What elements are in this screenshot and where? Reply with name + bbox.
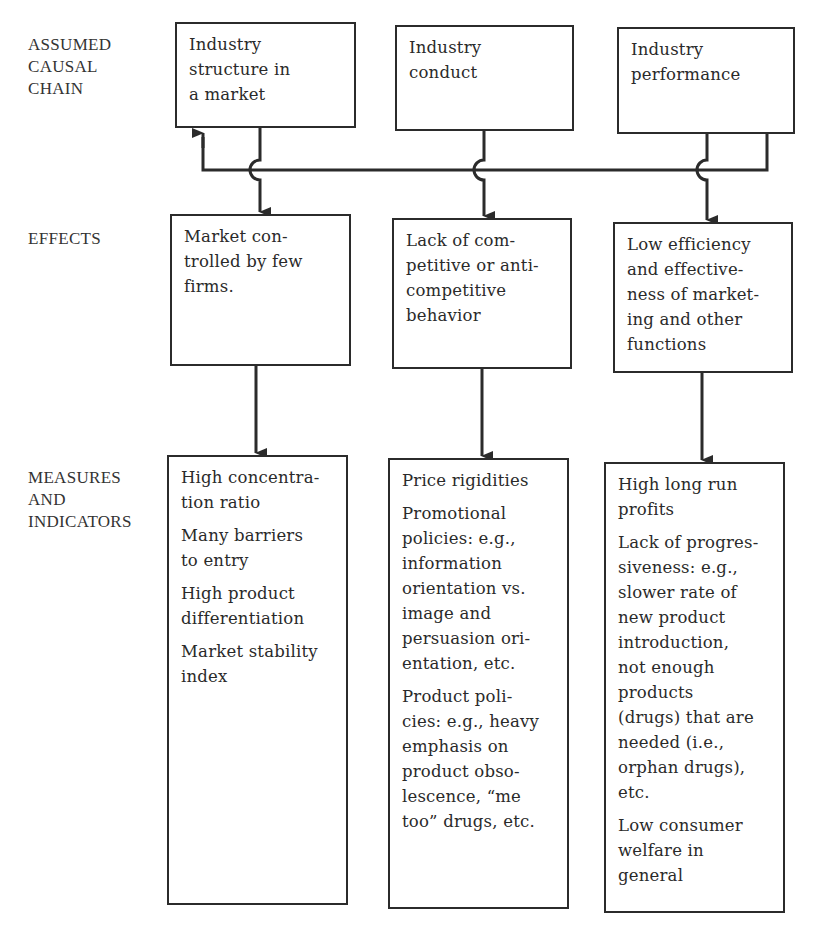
box-effect-market-controlled-text: Market con- trolled by few firms.	[172, 216, 349, 299]
arrow-conduct-to-effects	[474, 131, 484, 216]
box-effect-low-efficiency: Low efficiency and effective- ness of ma…	[613, 222, 793, 373]
box-measures-structure: High concentra- tion ratio Many barriers…	[167, 455, 348, 905]
arrow-structure-to-effects	[250, 128, 260, 212]
measures-performance-list: High long run profits Lack of progres- s…	[606, 464, 783, 888]
box-industry-conduct: Industry conduct	[395, 25, 574, 131]
box-industry-performance: Industry performance	[617, 27, 795, 134]
box-measures-conduct: Price rigidities Promotional policies: e…	[388, 458, 569, 909]
box-effect-market-controlled: Market con- trolled by few firms.	[170, 214, 351, 366]
measure-item: Lack of progres- siveness: e.g., slower …	[618, 530, 773, 805]
box-effect-lack-of-competition: Lack of com- petitive or anti- competiti…	[392, 218, 572, 369]
measure-item: High concentra- tion ratio	[181, 465, 336, 515]
arrow-performance-to-effects	[697, 134, 707, 220]
box-effect-low-efficiency-text: Low efficiency and effective- ness of ma…	[615, 224, 791, 357]
box-industry-conduct-text: Industry conduct	[397, 27, 572, 85]
box-measures-performance: High long run profits Lack of progres- s…	[604, 462, 785, 913]
measures-structure-list: High concentra- tion ratio Many barriers…	[169, 457, 346, 689]
measure-item: Many barriers to entry	[181, 523, 336, 573]
measure-item: Product poli- cies: e.g., heavy emphasis…	[402, 684, 557, 834]
box-industry-performance-text: Industry performance	[619, 29, 793, 87]
measure-item: High product differentiation	[181, 581, 336, 631]
measures-conduct-list: Price rigidities Promotional policies: e…	[390, 460, 567, 834]
box-industry-structure-text: Industry structure in a market	[177, 24, 354, 107]
measure-item: High long run profits	[618, 472, 773, 522]
feedback-line	[203, 131, 767, 170]
box-effect-lack-of-competition-text: Lack of com- petitive or anti- competiti…	[394, 220, 570, 328]
measure-item: Price rigidities	[402, 468, 557, 493]
row-label-assumed-causal-chain: ASSUMED CAUSAL CHAIN	[28, 34, 111, 100]
measure-item: Low consumer welfare in general	[618, 813, 773, 888]
measure-item: Market stability index	[181, 639, 336, 689]
row-label-effects: EFFECTS	[28, 228, 101, 250]
box-industry-structure: Industry structure in a market	[175, 22, 356, 128]
row-label-measures-and-indicators: MEASURES AND INDICATORS	[28, 467, 132, 533]
measure-item: Promotional policies: e.g., information …	[402, 501, 557, 676]
